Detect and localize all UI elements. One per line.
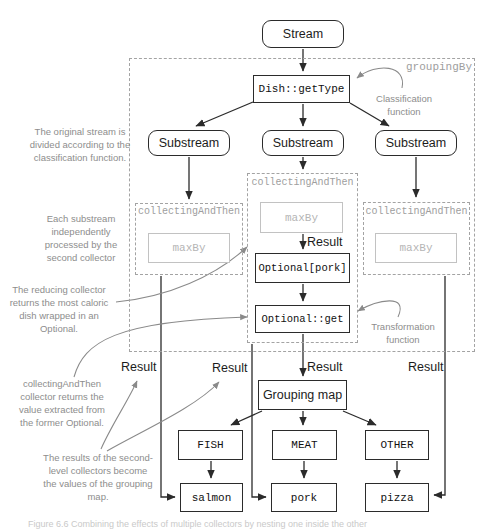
result-label-inner: Result — [307, 235, 342, 249]
grouping-map-box: Grouping map — [258, 380, 347, 410]
result-label-3: Result — [307, 360, 342, 374]
substream-box-middle: Substream — [262, 130, 344, 156]
annotation-results-values: The results of the second-level collecto… — [43, 451, 153, 503]
substream-box-left: Substream — [148, 130, 230, 156]
groupingby-label: groupingBy — [394, 61, 472, 73]
annotation-reducing-collector: The reducing collector returns the most … — [3, 283, 115, 335]
classification-function-box: Dish::getType — [253, 75, 350, 103]
result-label-4: Result — [408, 360, 443, 374]
annotation-collectingandthen: collectingAndThen collector returns the … — [13, 377, 111, 429]
map-value-pizza-box: pizza — [365, 483, 429, 512]
optional-get-box: Optional::get — [255, 305, 350, 333]
map-key-fish-box: FISH — [178, 430, 243, 460]
maxby-box-left: maxBy — [148, 233, 230, 263]
map-key-meat-box: MEAT — [272, 430, 337, 460]
collectingandthen-label-left: collectingAndThen — [137, 206, 241, 217]
optional-pork-box: Optional[pork] — [255, 253, 350, 283]
transformation-function-note: Transformation function — [362, 320, 444, 346]
annotation-each-substream: Each substream independently processed b… — [30, 212, 132, 264]
diagram-canvas: Stream groupingBy Dish::getType Classifi… — [0, 0, 494, 530]
stream-box: Stream — [262, 20, 344, 48]
annotation-original-stream: The original stream is divided according… — [24, 125, 136, 164]
substream-box-right: Substream — [375, 130, 457, 156]
map-key-other-box: OTHER — [365, 430, 429, 460]
collectingandthen-label-middle: collectingAndThen — [249, 177, 356, 188]
maxby-box-middle: maxBy — [260, 202, 343, 233]
collectingandthen-label-right: collectingAndThen — [365, 206, 468, 217]
classification-function-note: Classification function — [366, 92, 442, 118]
maxby-box-right: maxBy — [375, 233, 457, 263]
map-value-pork-box: pork — [271, 483, 337, 512]
result-label-2: Result — [212, 361, 247, 375]
figure-caption: Figure 6.6 Combining the effects of mult… — [28, 519, 367, 529]
result-label-1: Result — [121, 360, 156, 374]
map-value-salmon-box: salmon — [180, 483, 243, 512]
